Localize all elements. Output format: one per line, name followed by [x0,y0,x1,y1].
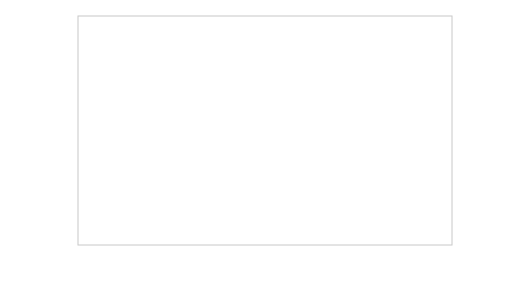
chart-figure [0,0,513,293]
plot-canvas [0,0,513,293]
plot-frame [78,16,452,245]
y-axis-title [0,0,40,260]
